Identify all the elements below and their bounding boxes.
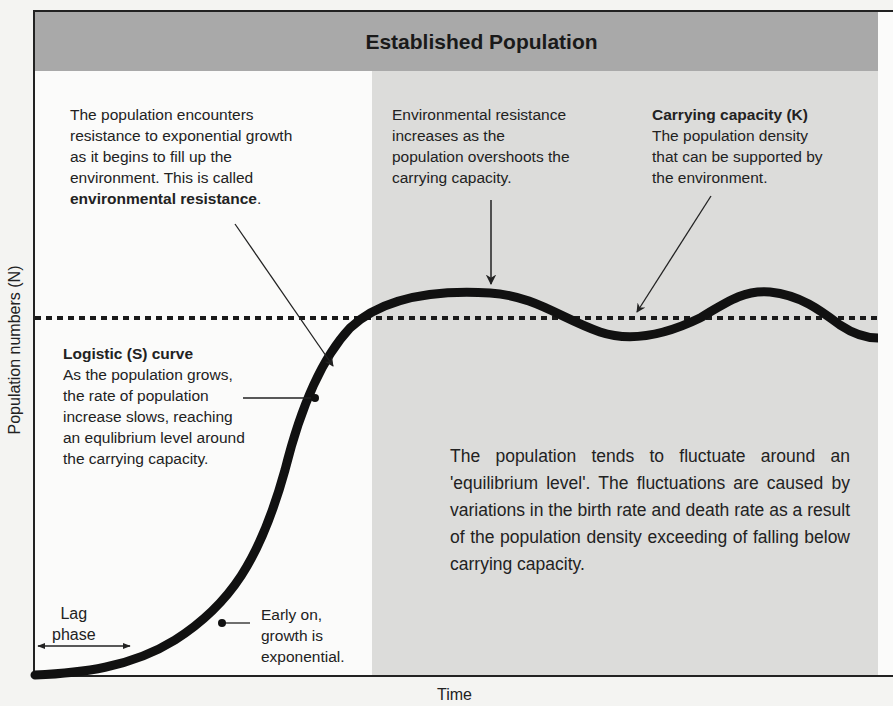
text-line: carrying capacity. — [392, 167, 570, 188]
x-axis-label: Time — [437, 686, 472, 704]
lag-phase-label: Lag phase — [52, 603, 96, 645]
text-line: as it begins to fill up the — [70, 146, 292, 167]
env-resistance-term: environmental resistance — [70, 190, 257, 207]
text-line: As the population grows, — [63, 364, 245, 385]
carrying-capacity-annotation: Carrying capacity (K) The population den… — [652, 104, 823, 188]
text-line: Lag — [52, 603, 96, 624]
text-line: phase — [52, 624, 96, 645]
text-line: environmental resistance. — [70, 188, 292, 209]
text-line: the environment. — [652, 167, 823, 188]
text-line: environment. This is called — [70, 167, 292, 188]
text-line: the carrying capacity. — [63, 448, 245, 469]
text-line: the rate of population — [63, 385, 245, 406]
exponential-annotation: Early on, growth is exponential. — [261, 604, 345, 667]
y-axis-label: Population numbers (N) — [6, 266, 24, 435]
text-line: resistance to exponential growth — [70, 125, 292, 146]
text-line: exponential. — [261, 646, 345, 667]
punctuation: . — [257, 190, 261, 207]
logistic-annotation: Logistic (S) curve As the population gro… — [63, 343, 245, 469]
text-line: population overshoots the — [392, 146, 570, 167]
text-line: that can be supported by — [652, 146, 823, 167]
logistic-pointer-dot — [311, 394, 319, 402]
text-line: increases as the — [392, 125, 570, 146]
fluctuation-annotation: The population tends to fluctuate around… — [450, 443, 850, 578]
text-line: increase slows, reaching — [63, 406, 245, 427]
env-resistance-arrow — [235, 224, 333, 366]
text-line: The population encounters — [70, 104, 292, 125]
carrying-capacity-arrow — [637, 196, 711, 312]
text-line: Early on, — [261, 604, 345, 625]
carrying-capacity-title: Carrying capacity (K) — [652, 104, 823, 125]
text-line: Environmental resistance — [392, 104, 570, 125]
logistic-title: Logistic (S) curve — [63, 343, 245, 364]
exponential-pointer-dot — [218, 619, 226, 627]
text-line: an equlibrium level around — [63, 427, 245, 448]
env-resistance-annotation: The population encounters resistance to … — [70, 104, 292, 209]
text-line: The population density — [652, 125, 823, 146]
text-line: growth is — [261, 625, 345, 646]
overshoot-annotation: Environmental resistance increases as th… — [392, 104, 570, 188]
